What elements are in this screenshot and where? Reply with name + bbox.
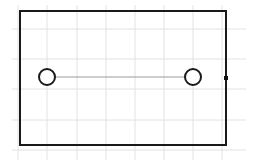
right-hole-circle[interactable] [185,69,201,85]
resize-handle[interactable] [224,76,228,80]
drawing-canvas[interactable] [0,0,258,166]
left-hole-circle[interactable] [39,69,55,85]
